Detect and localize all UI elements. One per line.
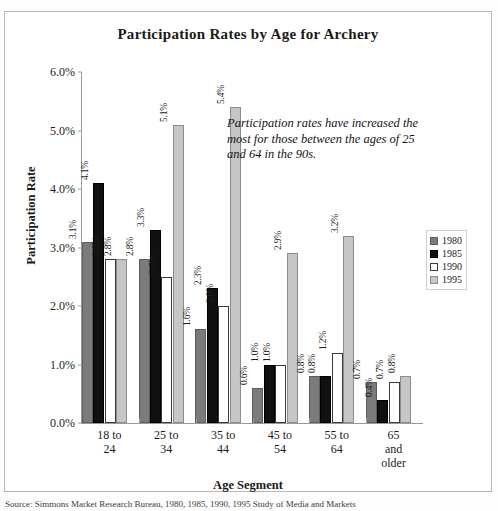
x-axis-label-line: 55 to <box>308 428 365 442</box>
legend-label: 1990 <box>442 261 462 272</box>
bar-1980-25-to-34: 2.8% <box>139 259 150 423</box>
x-axis-tick-labels: 18 to2425 to3435 to4445 to5455 to6465and… <box>81 428 423 484</box>
x-axis-tick-mark <box>309 418 310 423</box>
x-axis-tick-mark <box>253 418 254 423</box>
bar-value-label: 1.2% <box>318 331 328 350</box>
bar-value-label: 0.6% <box>238 366 248 385</box>
bar-value-label: 2.3% <box>193 266 203 285</box>
bar-value-label: 0.4% <box>363 378 373 397</box>
bar-1995-45-to-54: 2.9% <box>287 253 298 423</box>
legend-swatch-icon <box>430 250 438 258</box>
legend-item-1980[interactable]: 1980 <box>430 234 462 247</box>
bar-1980-18-to-24: 3.1% <box>82 242 93 423</box>
bar-1980-45-to-54: 0.6% <box>252 388 263 423</box>
legend-label: 1980 <box>442 235 462 246</box>
bar-1980-55-to-64: 0.8% <box>309 376 320 423</box>
x-axis-label-line: older <box>365 456 422 470</box>
bar-value-label: 3.1% <box>68 220 78 239</box>
legend-label: 1995 <box>442 274 462 285</box>
bar-value-label: 0.8% <box>295 354 305 373</box>
x-axis-label-18-to-24: 18 to24 <box>81 428 138 456</box>
bar-1990-55-to-64: 1.2% <box>332 353 343 423</box>
legend-swatch-icon <box>430 263 438 271</box>
bar-value-label: 0.7% <box>352 360 362 379</box>
bar-value-label: 5.1% <box>159 103 169 122</box>
bar-value-label: 2.0% <box>204 284 214 303</box>
bar-value-label: 0.7% <box>375 360 385 379</box>
x-axis-label-65-and-older: 65andolder <box>365 428 422 470</box>
bar-1990-25-to-34: 2.5% <box>161 277 172 423</box>
bar-1995-65-and-older: 0.8% <box>400 376 411 423</box>
x-axis-label-line: 44 <box>195 442 252 456</box>
x-axis-label-line: and <box>365 442 422 456</box>
x-axis-label-line: 64 <box>308 442 365 456</box>
bar-1985-65-and-older: 0.4% <box>377 400 388 423</box>
chart-page: Participation Rates by Age for Archery P… <box>0 0 498 511</box>
bar-value-label: 3.2% <box>329 214 339 233</box>
bar-value-label: 2.5% <box>147 255 157 274</box>
bar-value-label: 3.3% <box>136 208 146 227</box>
bar-1990-65-and-older: 0.7% <box>389 382 400 423</box>
legend-item-1990[interactable]: 1990 <box>430 260 462 273</box>
x-axis-title: Age Segment <box>5 478 491 493</box>
x-axis-label-line: 35 to <box>195 428 252 442</box>
legend-swatch-icon <box>430 276 438 284</box>
x-axis-label-25-to-34: 25 to34 <box>138 428 195 456</box>
source-note: Source: Simmons Market Research Bureau, … <box>5 499 495 510</box>
x-axis-label-line: 18 to <box>81 428 138 442</box>
x-axis-label-line: 25 to <box>138 428 195 442</box>
x-axis-label-line: 65 <box>365 428 422 442</box>
bar-value-label: 4.1% <box>79 161 89 180</box>
x-axis-label-55-to-64: 55 to64 <box>308 428 365 456</box>
bar-value-label: 2.8% <box>125 237 135 256</box>
bar-1980-35-to-44: 1.6% <box>195 329 206 423</box>
bar-value-label: 2.8% <box>91 237 101 256</box>
x-axis-label-45-to-54: 45 to54 <box>252 428 309 456</box>
x-axis-label-line: 45 to <box>252 428 309 442</box>
x-axis-label-35-to-44: 35 to44 <box>195 428 252 456</box>
bar-value-label: 0.8% <box>386 354 396 373</box>
chart-annotation: Participation rates have increased the m… <box>227 116 433 163</box>
bar-1985-35-to-44: 2.3% <box>207 288 218 423</box>
x-axis-label-line: 24 <box>81 442 138 456</box>
bar-1990-35-to-44: 2.0% <box>218 306 229 423</box>
chart-legend: 1980198519901995 <box>426 230 467 290</box>
bar-1985-18-to-24: 4.1% <box>93 183 104 423</box>
chart-title: Participation Rates by Age for Archery <box>5 26 491 43</box>
bar-1990-18-to-24: 2.8% <box>105 259 116 423</box>
chart-frame: Participation Rates by Age for Archery P… <box>4 11 492 492</box>
bar-1995-18-to-24: 2.8% <box>116 259 127 423</box>
bar-value-label: 2.9% <box>273 231 283 250</box>
bar-1990-45-to-54: 1.0% <box>275 365 286 424</box>
x-axis-label-line: 54 <box>252 442 309 456</box>
legend-swatch-icon <box>430 237 438 245</box>
bar-value-label: 1.0% <box>250 343 260 362</box>
bar-1985-45-to-54: 1.0% <box>264 365 275 424</box>
bar-group: 2.8%3.3%2.5%5.1% <box>139 72 196 423</box>
bar-value-label: 0.8% <box>306 354 316 373</box>
bar-1995-25-to-34: 5.1% <box>173 125 184 423</box>
bar-1995-55-to-64: 3.2% <box>343 236 354 423</box>
bar-1985-55-to-64: 0.8% <box>320 376 331 423</box>
x-axis-label-line: 34 <box>138 442 195 456</box>
bar-value-label: 1.6% <box>181 307 191 326</box>
x-axis-tick-mark <box>366 418 367 423</box>
y-axis-title: Participation Rate <box>24 146 39 286</box>
legend-item-1995[interactable]: 1995 <box>430 273 462 286</box>
bar-value-label: 5.4% <box>216 85 226 104</box>
legend-label: 1985 <box>442 248 462 259</box>
bar-value-label: 2.8% <box>102 237 112 256</box>
bar-value-label: 1.0% <box>261 343 271 362</box>
legend-item-1985[interactable]: 1985 <box>430 247 462 260</box>
x-axis-tick-mark <box>196 418 197 423</box>
x-axis-tick-mark <box>139 418 140 423</box>
